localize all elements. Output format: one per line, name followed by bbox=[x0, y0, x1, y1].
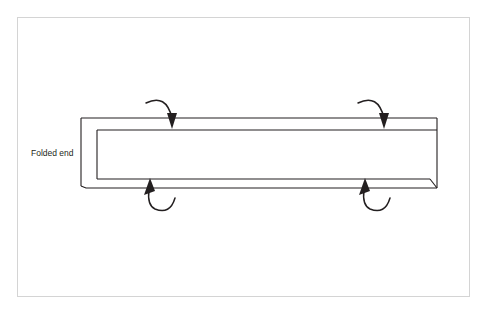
beam-diagram-svg: Folded end bbox=[0, 0, 492, 313]
beam-bottom-right-chamfer bbox=[430, 179, 437, 188]
slide-border bbox=[18, 18, 470, 297]
rotation-arrow-bottom-left-arc bbox=[149, 190, 175, 211]
rotation-arrow-top-left bbox=[146, 100, 177, 129]
diagram-canvas: Folded end bbox=[0, 0, 492, 313]
rotation-arrow-top-right-head bbox=[379, 113, 389, 129]
rotation-arrow-bottom-right bbox=[359, 178, 390, 211]
rotation-arrow-bottom-left-head bbox=[144, 178, 155, 195]
rotation-arrow-bottom-right-arc bbox=[364, 190, 390, 211]
rotation-arrow-bottom-left bbox=[144, 178, 175, 211]
rotation-arrow-top-right bbox=[358, 100, 389, 129]
rotation-arrow-top-left-head bbox=[167, 113, 177, 129]
beam-bottom-outer-edge bbox=[81, 186, 437, 188]
rotation-arrow-bottom-right-head bbox=[359, 178, 370, 195]
folded-end-label: Folded end bbox=[31, 148, 74, 158]
